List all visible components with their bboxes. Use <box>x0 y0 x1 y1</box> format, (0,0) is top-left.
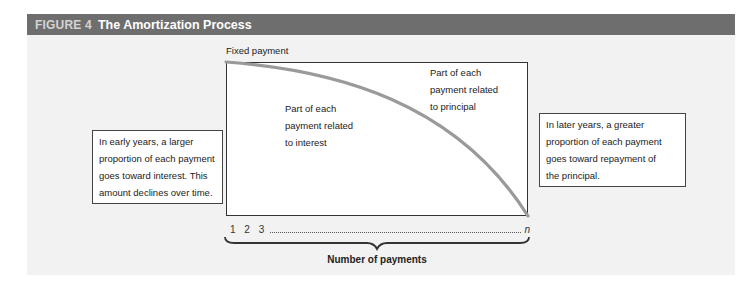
x-axis-ticks: 1 2 3 n <box>230 224 530 235</box>
figure-title: The Amortization Process <box>98 18 252 32</box>
callout-line: proportion of each payment <box>546 133 679 150</box>
interest-label-line: to interest <box>285 134 353 151</box>
interest-region-label: Part of each payment related to interest <box>285 100 353 151</box>
callout-line: amount declines over time. <box>99 184 216 201</box>
callout-line: In later years, a greater <box>546 116 679 133</box>
curly-brace-icon <box>224 236 530 252</box>
callout-line: In early years, a larger <box>99 133 216 150</box>
principal-label-line: Part of each <box>430 64 498 81</box>
callout-line: goes toward interest. This <box>99 167 216 184</box>
principal-label-line: payment related <box>430 81 498 98</box>
figure-number: FIGURE 4 <box>35 18 92 32</box>
x-axis-title: Number of payments <box>226 254 528 265</box>
callout-later-years: In later years, a greater proportion of … <box>539 113 686 187</box>
tick-label-n: n <box>524 224 530 235</box>
figure-header: FIGURE 4 The Amortization Process <box>27 14 735 35</box>
y-axis-label-fixed-payment: Fixed payment <box>226 45 288 56</box>
interest-label-line: Part of each <box>285 100 353 117</box>
interest-label-line: payment related <box>285 117 353 134</box>
callout-line: goes toward repayment of <box>546 150 679 167</box>
principal-region-label: Part of each payment related to principa… <box>430 64 498 115</box>
principal-label-line: to principal <box>430 98 498 115</box>
tick-labels-start: 1 2 3 <box>230 224 267 235</box>
callout-line: the principal. <box>546 167 679 184</box>
callout-line: proportion of each payment <box>99 150 216 167</box>
callout-early-years: In early years, a larger proportion of e… <box>92 130 223 204</box>
tick-dots <box>270 224 521 233</box>
